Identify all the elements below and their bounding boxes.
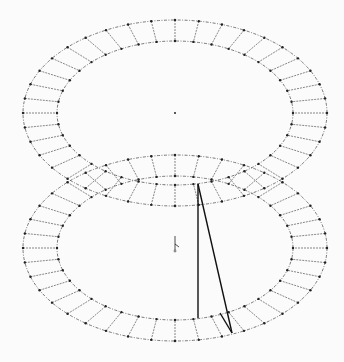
mesh-node <box>286 134 288 136</box>
radial-spoke <box>25 233 59 236</box>
mesh-node <box>318 218 320 220</box>
mesh-node <box>198 155 200 157</box>
mesh-node <box>174 175 176 177</box>
mesh-node <box>318 83 320 85</box>
radial-spoke <box>68 164 92 179</box>
mesh-node <box>105 330 107 332</box>
mesh-node <box>221 200 223 202</box>
mesh-node <box>227 48 229 50</box>
mesh-node <box>281 313 283 315</box>
mesh-node <box>62 269 64 271</box>
mesh-node <box>120 48 122 50</box>
mesh-node <box>69 214 71 216</box>
mesh-node <box>155 318 157 320</box>
mesh-node <box>324 261 326 263</box>
mesh-node <box>221 335 223 337</box>
mesh-node <box>57 236 59 238</box>
radial-spoke <box>128 181 139 201</box>
mesh-node <box>62 225 64 227</box>
radial-spoke <box>106 312 121 331</box>
radial-spoke <box>86 173 106 190</box>
mesh-node <box>324 97 326 99</box>
radial-spoke <box>40 281 70 291</box>
mesh-node <box>84 322 86 324</box>
mesh-node <box>198 339 200 341</box>
mesh-node <box>24 97 26 99</box>
radial-spoke <box>151 156 156 177</box>
mesh-node <box>66 181 68 183</box>
mesh-node <box>290 101 292 103</box>
radial-spoke <box>25 98 59 101</box>
mesh-node <box>84 37 86 39</box>
mesh-node <box>269 289 271 291</box>
mesh-node <box>290 123 292 125</box>
radial-spoke <box>30 135 62 141</box>
radial-spoke <box>193 156 198 177</box>
radial-spoke <box>151 319 156 340</box>
mesh-node <box>243 170 245 172</box>
radial-spoke <box>25 259 59 262</box>
mesh-node <box>127 200 129 202</box>
mesh-node <box>155 41 157 43</box>
mesh-node <box>290 258 292 260</box>
radial-spoke <box>258 47 282 62</box>
radial-spoke <box>280 146 310 156</box>
radial-spoke <box>270 193 298 205</box>
mesh-node <box>292 112 294 114</box>
mesh-node <box>90 61 92 63</box>
radial-spoke <box>287 270 319 276</box>
mesh-node <box>243 29 245 31</box>
mesh-node <box>84 172 86 174</box>
mesh-node <box>174 154 176 156</box>
mesh-node <box>104 170 106 172</box>
radial-spoke <box>40 146 70 156</box>
mesh-node <box>281 46 283 48</box>
mesh-node <box>127 23 129 25</box>
mesh-node <box>38 289 40 291</box>
mesh-node <box>174 205 176 207</box>
mesh-node <box>297 301 299 303</box>
mesh-node <box>24 126 26 128</box>
radial-spoke <box>244 306 264 323</box>
mesh-node <box>22 247 24 249</box>
mesh-node <box>78 154 80 156</box>
radial-spoke <box>280 71 310 81</box>
mesh-node <box>22 112 24 114</box>
radial-spoke <box>52 193 80 205</box>
axis-tick <box>175 244 179 247</box>
mesh-node <box>309 205 311 207</box>
mesh-node <box>105 195 107 197</box>
mesh-node <box>324 232 326 234</box>
mesh-node <box>150 20 152 22</box>
radial-spoke <box>30 270 62 276</box>
mesh-node <box>51 192 53 194</box>
radial-spoke <box>106 30 121 49</box>
radial-spoke <box>258 299 282 314</box>
radial-spoke <box>292 98 326 101</box>
radial-spoke <box>151 21 156 42</box>
radial-spoke <box>211 160 222 180</box>
radial-spoke <box>193 21 198 42</box>
mesh-node <box>210 43 212 45</box>
mesh-node <box>62 134 64 136</box>
mesh-node <box>105 29 107 31</box>
radial-spoke <box>287 135 319 141</box>
mesh-node <box>137 178 139 180</box>
mesh-node <box>127 158 129 160</box>
mesh-node <box>210 178 212 180</box>
mesh-node <box>210 315 212 317</box>
mesh-node <box>243 164 245 166</box>
mesh-node <box>281 178 283 180</box>
mesh-node <box>155 176 157 178</box>
mesh-node <box>221 23 223 25</box>
mesh-node <box>281 181 283 183</box>
radial-spoke <box>151 184 156 205</box>
mesh-node <box>66 178 68 180</box>
radial-spoke <box>229 165 244 184</box>
mesh-node <box>326 247 328 249</box>
mesh-node <box>309 154 311 156</box>
mesh-node <box>120 176 122 178</box>
mesh-node <box>263 172 265 174</box>
radial-spoke <box>244 171 264 188</box>
mesh-node <box>297 166 299 168</box>
